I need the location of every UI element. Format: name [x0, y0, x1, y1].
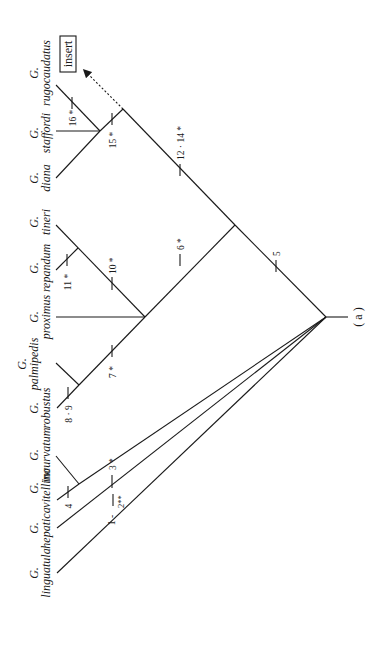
- svg-text:linguatula: linguatula: [39, 548, 53, 597]
- taxon-palmipedis: G. palmipedis: [15, 337, 41, 391]
- taxon-linguatula: G. linguatula: [27, 548, 53, 597]
- branch-main-clade: [235, 225, 326, 317]
- char-3: 3 *: [108, 458, 118, 470]
- svg-text:rugocaudatus: rugocaudatus: [39, 40, 53, 106]
- insert-label: insert: [61, 40, 75, 67]
- taxon-staffordi: G. staffordi: [27, 113, 53, 153]
- branch-linguatula: [57, 317, 326, 573]
- branch-rugocaudatus: [56, 85, 100, 131]
- branch-palmipedis: [56, 363, 79, 385]
- char-1-2: 1 -: [107, 515, 117, 525]
- char-4: 4: [64, 503, 74, 508]
- taxon-incurvatum: G. incurvatum: [27, 427, 53, 482]
- taxon-hepatica: G. hepatica: [27, 507, 53, 548]
- taxon-labels: G. linguatula G. hepatica G. vitellino G…: [15, 40, 53, 598]
- branch-proximus-clade: [145, 225, 235, 317]
- taxon-robustus: G. robustus: [27, 387, 53, 428]
- branch-repandum-tineri: [56, 225, 145, 317]
- svg-text:proximus: proximus: [39, 295, 53, 341]
- branch-diana: [56, 131, 100, 178]
- char-6: 6 *: [176, 238, 186, 250]
- tree-branches: [56, 85, 348, 573]
- taxon-rugocaudatus: G. rugocaudatus: [27, 40, 53, 106]
- svg-text:diana: diana: [39, 164, 53, 191]
- insert-arrow: [86, 72, 123, 109]
- panel-label: ( a ): [351, 307, 365, 326]
- svg-text:incurvatum: incurvatum: [39, 427, 53, 482]
- svg-text:tineri: tineri: [39, 209, 53, 235]
- char-5: 5: [272, 251, 282, 256]
- taxon-proximus: G. proximus: [27, 295, 53, 341]
- char-1-2-b: 2**: [116, 495, 126, 508]
- cladogram-figure: insert ( a ) G. linguatula G. hepatica G…: [0, 0, 385, 657]
- insert-box: insert: [60, 36, 76, 72]
- char-11: 11 *: [63, 274, 73, 291]
- taxon-tineri: G. tineri: [27, 209, 53, 235]
- char-7: 7 *: [108, 366, 118, 378]
- char-8-9: 8 · 9: [64, 405, 74, 423]
- svg-text:hepatica: hepatica: [39, 507, 53, 548]
- char-15: 15 *: [108, 131, 118, 148]
- cladogram-svg: insert ( a ) G. linguatula G. hepatica G…: [0, 0, 385, 657]
- char-16: 16 *: [68, 109, 78, 126]
- svg-text:palmipedis: palmipedis: [27, 337, 41, 391]
- taxon-diana: G. diana: [27, 164, 53, 191]
- char-12-14: 12 · 14 *: [176, 126, 186, 160]
- taxon-repandum: G. repandum: [27, 244, 53, 293]
- svg-text:repandum: repandum: [39, 244, 53, 293]
- branch-hepatica: [57, 317, 326, 528]
- branch-incurvatum: [56, 456, 79, 484]
- svg-text:robustus: robustus: [39, 387, 53, 428]
- svg-text:staffordi: staffordi: [39, 113, 53, 153]
- char-10: 10 *: [108, 257, 118, 274]
